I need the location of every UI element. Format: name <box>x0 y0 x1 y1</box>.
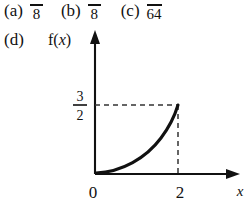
choice-c-tag: (c) <box>121 2 140 22</box>
answer-choice-a[interactable]: (a) 8 <box>4 0 43 22</box>
answer-choice-row: (a) 8 (b) 8 (c) 64 <box>0 0 244 22</box>
y-axis-arrowhead <box>90 30 100 44</box>
choice-c-denominator: 64 <box>147 7 162 22</box>
choice-c-fraction: 64 <box>147 0 162 22</box>
function-curve <box>96 105 178 173</box>
question-fragment-page: (a) 8 (b) 8 (c) 64 (d) <box>0 0 244 204</box>
x-axis-arrowhead <box>226 169 240 179</box>
y-tick-label-three-halves: 3 2 <box>73 89 87 123</box>
choice-a-fraction: 8 <box>30 0 43 22</box>
x-tick-label-two: 2 <box>176 183 185 202</box>
choice-a-denominator: 8 <box>33 7 41 22</box>
y-axis-label: f(x) <box>48 31 71 49</box>
answer-choice-b[interactable]: (b) 8 <box>61 0 101 22</box>
x-axis-label: x <box>236 183 244 199</box>
y-tick-denominator: 2 <box>77 108 84 123</box>
y-tick-numerator: 3 <box>77 89 84 104</box>
choice-b-denominator: 8 <box>90 7 98 22</box>
choice-b-fraction: 8 <box>88 0 101 22</box>
choice-a-tag: (a) <box>4 2 23 22</box>
choice-b-tag: (b) <box>61 2 81 22</box>
answer-choice-c[interactable]: (c) 64 <box>121 0 162 22</box>
x-tick-label-zero: 0 <box>89 183 98 202</box>
function-graph: f(x) 3 2 0 2 <box>0 26 244 204</box>
